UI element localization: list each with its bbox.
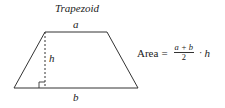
label-height-h: h — [49, 53, 55, 64]
formula-lhs: Area — [137, 47, 158, 59]
label-top-base-a: a — [73, 19, 79, 30]
formula-factor: h — [204, 47, 210, 59]
figure-title: Trapezoid — [55, 3, 99, 14]
area-formula: Area = a + b 2 · h — [137, 43, 210, 63]
trapezoid-shape — [14, 32, 138, 88]
formula-equals: = — [161, 47, 167, 59]
right-angle-marker — [39, 82, 45, 88]
formula-operator: · — [199, 47, 202, 58]
label-bottom-base-b: b — [73, 92, 79, 103]
formula-fraction: a + b 2 — [174, 43, 195, 63]
fraction-denominator: 2 — [182, 53, 186, 62]
